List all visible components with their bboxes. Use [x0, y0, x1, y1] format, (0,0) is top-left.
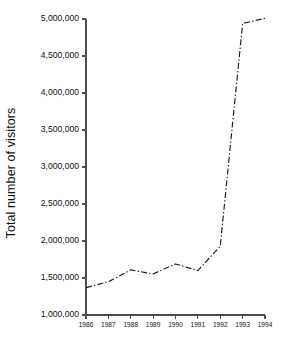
y-tick-label: 3,000,000 [41, 161, 79, 171]
chart-figure: Total number of visitors 1,000,0001,500,… [0, 0, 284, 346]
y-tick-label: 2,500,000 [41, 198, 79, 208]
visitors-line-series [86, 18, 265, 287]
x-tick-label: 1989 [146, 321, 161, 328]
x-tick-label: 1987 [101, 321, 116, 328]
y-tick-label: 4,000,000 [41, 87, 79, 97]
x-tick-label: 1990 [168, 321, 183, 328]
x-axis-tick-labels: 198619871988198919901991199219931994 [79, 321, 273, 328]
y-tick-label: 5,000,000 [41, 13, 79, 23]
x-tick-label: 1988 [123, 321, 138, 328]
x-tick-label: 1992 [213, 321, 228, 328]
chart-plot-area: 1,000,0001,500,0002,000,0002,500,0003,00… [0, 0, 284, 346]
x-axis-tick-marks [86, 315, 265, 319]
y-tick-label: 1,000,000 [41, 309, 79, 319]
y-tick-label: 4,500,000 [41, 50, 79, 60]
y-axis-tick-marks [82, 19, 86, 315]
x-tick-label: 1994 [258, 321, 273, 328]
y-tick-label: 2,000,000 [41, 235, 79, 245]
x-tick-label: 1993 [235, 321, 250, 328]
y-axis-tick-labels: 1,000,0001,500,0002,000,0002,500,0003,00… [41, 13, 79, 319]
x-tick-label: 1986 [79, 321, 94, 328]
y-tick-label: 3,500,000 [41, 124, 79, 134]
y-tick-label: 1,500,000 [41, 272, 79, 282]
x-tick-label: 1991 [191, 321, 206, 328]
